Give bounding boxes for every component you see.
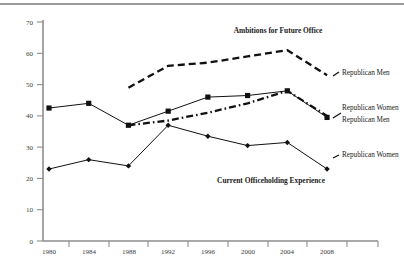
data-point-marker <box>324 166 329 171</box>
y-tick-label-70: 70 <box>26 19 34 27</box>
data-point-marker <box>166 109 171 114</box>
data-point-marker <box>205 133 210 138</box>
data-point-marker <box>205 94 210 99</box>
series-path <box>49 91 327 125</box>
x-axis-ticks <box>69 241 378 247</box>
x-tick-label-1996: 1996 <box>201 248 216 256</box>
series-path <box>128 50 327 88</box>
data-point-marker <box>126 123 131 128</box>
x-tick-label-1980: 1980 <box>42 248 57 256</box>
series-leader-lines <box>333 72 341 158</box>
y-tick-label-40: 40 <box>26 112 34 120</box>
y-tick-label-20: 20 <box>26 175 34 183</box>
x-tick-label-2000: 2000 <box>241 248 256 256</box>
x-tick-label-1988: 1988 <box>122 248 137 256</box>
data-point-marker <box>86 101 91 106</box>
y-axis-ticks <box>37 22 43 241</box>
data-point-marker <box>46 105 51 110</box>
data-point-marker <box>245 143 250 148</box>
y-tick-label-50: 50 <box>26 81 34 89</box>
x-tick-label-2004: 2004 <box>280 248 295 256</box>
series-officeholding-republican-men <box>46 88 329 128</box>
annotation-ambitions: Ambitions for Future Office <box>234 26 323 35</box>
series-label-ambitions-women: Republican Women <box>342 104 399 112</box>
annotation-officeholding: Current Officeholding Experience <box>217 176 326 185</box>
chart-root: 70 60 50 40 30 20 10 0 1980 1984 1988 19… <box>0 0 404 262</box>
data-point-marker <box>245 93 250 98</box>
x-tick-label-1984: 1984 <box>82 248 97 256</box>
y-tick-label-60: 60 <box>26 50 34 58</box>
series-path <box>49 125 327 169</box>
line-chart-canvas: 70 60 50 40 30 20 10 0 1980 1984 1988 19… <box>0 0 404 262</box>
y-tick-label-30: 30 <box>26 144 34 152</box>
x-tick-label-1992: 1992 <box>161 248 176 256</box>
data-point-marker <box>86 157 91 162</box>
data-point-marker <box>285 140 290 145</box>
data-point-marker <box>46 166 51 171</box>
data-point-marker <box>324 115 329 120</box>
series-ambitions-republican-men <box>128 50 327 88</box>
y-tick-label-0: 0 <box>30 238 34 246</box>
series-label-office-women: Republican Women <box>342 151 399 159</box>
series-layer <box>46 50 329 172</box>
x-tick-label-2008: 2008 <box>320 248 335 256</box>
series-officeholding-republican-women <box>46 123 329 172</box>
y-tick-label-10: 10 <box>26 206 34 214</box>
series-label-ambitions-men: Republican Men <box>342 69 390 77</box>
series-label-office-men: Republican Men <box>342 116 390 124</box>
data-point-marker <box>285 88 290 93</box>
